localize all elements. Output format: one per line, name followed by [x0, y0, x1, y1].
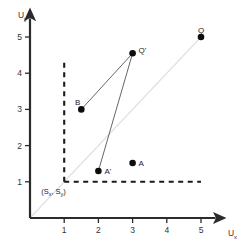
y-tick-label: 3: [17, 104, 22, 114]
x-tick-label: 1: [62, 225, 67, 235]
x-axis-ticks: 12345: [62, 218, 204, 235]
data-points-group: QQ'BA'A: [75, 26, 204, 176]
shelf-annotation-text: (Sx, Sy): [41, 187, 66, 197]
y-tick-label: 4: [17, 68, 22, 78]
point-label-A: A: [139, 159, 145, 168]
plot-canvas: 12345 12345 QQ'BA'A U y U x (Sx, Sy): [0, 0, 250, 249]
y-axis-title-subscript: y: [24, 16, 27, 22]
point-label-Q': Q': [139, 46, 147, 55]
shelf-point-annotation: (Sx, Sy): [41, 187, 66, 197]
y-tick-label: 5: [17, 32, 22, 42]
data-point-A'[interactable]: [95, 168, 102, 175]
x-tick-label: 4: [164, 225, 169, 235]
y-tick-label: 2: [17, 141, 22, 151]
x-tick-label: 3: [130, 225, 135, 235]
x-tick-label: 2: [96, 225, 101, 235]
point-label-B: B: [75, 98, 80, 107]
data-point-A[interactable]: [129, 160, 136, 167]
connector-A'-to-Q': [98, 53, 132, 171]
x-axis-title-subscript: x: [234, 234, 237, 240]
scatter-plot-figure: 12345 12345 QQ'BA'A U y U x (Sx, Sy): [0, 0, 250, 249]
connector-lines: [81, 53, 132, 171]
data-point-Q'[interactable]: [129, 50, 136, 57]
x-tick-label: 5: [199, 225, 204, 235]
y-axis-ticks: 12345: [17, 32, 30, 187]
axis-titles: U y U x: [18, 10, 237, 240]
y-tick-label: 1: [17, 177, 22, 187]
point-label-A': A': [104, 167, 111, 176]
point-label-Q: Q: [198, 26, 204, 35]
